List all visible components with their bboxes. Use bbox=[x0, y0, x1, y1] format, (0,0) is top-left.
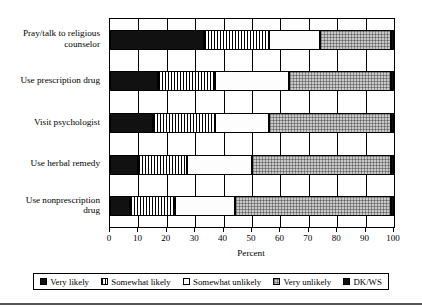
bar-segment bbox=[110, 30, 204, 50]
legend-item[interactable]: Very unlikely bbox=[273, 277, 331, 287]
bar-row bbox=[110, 196, 394, 216]
legend-swatch-icon bbox=[40, 278, 47, 285]
x-axis-tick-label: 10 bbox=[125, 233, 149, 244]
x-axis-tick-label: 70 bbox=[296, 233, 320, 244]
x-axis-tick-label: 50 bbox=[239, 233, 263, 244]
x-axis-title: Percent bbox=[109, 248, 393, 258]
x-axis-tick bbox=[336, 227, 337, 232]
x-axis-tick bbox=[308, 227, 309, 232]
category-label: Use prescription drug bbox=[0, 75, 100, 86]
bar-segment bbox=[235, 196, 391, 216]
stacked-bar bbox=[110, 196, 394, 216]
x-axis-tick bbox=[251, 227, 252, 232]
legend-swatch-icon bbox=[183, 278, 190, 285]
x-axis-tick-label: 20 bbox=[154, 233, 178, 244]
x-axis-tick bbox=[279, 227, 280, 232]
bar-segment bbox=[110, 196, 130, 216]
bar-segment bbox=[391, 113, 394, 133]
chart-legend: Very likelySomewhat likelySomewhat unlik… bbox=[33, 273, 389, 290]
category-label-line: counselor bbox=[0, 39, 100, 50]
x-axis-ticks bbox=[109, 227, 393, 232]
legend-item[interactable]: Somewhat likely bbox=[101, 277, 170, 287]
category-label-line: Use nonprescription bbox=[0, 195, 100, 206]
bar-segment bbox=[391, 30, 394, 50]
category-label: Use herbal remedy bbox=[0, 158, 100, 169]
bar-segment bbox=[187, 155, 252, 175]
legend-item[interactable]: DK/WS bbox=[343, 277, 381, 287]
x-axis-tick bbox=[393, 227, 394, 232]
category-label-line: Visit psychologist bbox=[0, 117, 100, 128]
bar-segment bbox=[391, 155, 394, 175]
x-axis-tick-labels: 0102030405060708090100 bbox=[109, 233, 393, 245]
x-axis-tick bbox=[365, 227, 366, 232]
x-axis-tick-label: 30 bbox=[182, 233, 206, 244]
bar-segment bbox=[215, 71, 289, 91]
bar-segment bbox=[391, 71, 394, 91]
page-divider bbox=[0, 303, 422, 305]
stacked-bar bbox=[110, 30, 394, 50]
category-label: Visit psychologist bbox=[0, 117, 100, 128]
x-axis-tick-label: 40 bbox=[211, 233, 235, 244]
x-axis-tick bbox=[223, 227, 224, 232]
bar-row bbox=[110, 71, 394, 91]
bar-segment bbox=[215, 113, 269, 133]
category-label-line: Use herbal remedy bbox=[0, 158, 100, 169]
x-axis-tick-label: 90 bbox=[353, 233, 377, 244]
legend-label: Somewhat unlikely bbox=[193, 277, 261, 287]
plot-area bbox=[109, 18, 395, 228]
bar-row bbox=[110, 30, 394, 50]
legend-swatch-icon bbox=[343, 278, 350, 285]
legend-label: Somewhat likely bbox=[111, 277, 170, 287]
legend-label: Very unlikely bbox=[283, 277, 331, 287]
x-axis-tick-label: 0 bbox=[97, 233, 121, 244]
bar-segment bbox=[320, 30, 391, 50]
bar-segment bbox=[110, 155, 138, 175]
chart-figure: Pray/talk to religiouscounselorUse presc… bbox=[0, 0, 422, 307]
bar-segment bbox=[153, 113, 215, 133]
x-axis-tick-label: 100 bbox=[381, 233, 405, 244]
category-axis-labels: Pray/talk to religiouscounselorUse presc… bbox=[0, 18, 104, 226]
bar-row bbox=[110, 155, 394, 175]
bar-segment bbox=[138, 155, 186, 175]
category-label-line: Use prescription drug bbox=[0, 75, 100, 86]
bar-segment bbox=[130, 196, 175, 216]
category-label-line: Pray/talk to religious bbox=[0, 28, 100, 39]
category-label: Pray/talk to religiouscounselor bbox=[0, 28, 100, 49]
legend-label: DK/WS bbox=[353, 277, 381, 287]
bar-segment bbox=[269, 30, 320, 50]
x-axis-tick-label: 80 bbox=[324, 233, 348, 244]
x-axis-tick bbox=[194, 227, 195, 232]
legend-swatch-icon bbox=[101, 278, 108, 285]
bar-segment bbox=[269, 113, 391, 133]
legend-item[interactable]: Very likely bbox=[40, 277, 89, 287]
bar-segment bbox=[175, 196, 235, 216]
bar-segment bbox=[252, 155, 391, 175]
legend-label: Very likely bbox=[50, 277, 89, 287]
x-axis-tick bbox=[137, 227, 138, 232]
category-label: Use nonprescriptiondrug bbox=[0, 195, 100, 216]
bar-segment bbox=[110, 71, 158, 91]
x-axis-tick bbox=[109, 227, 110, 232]
stacked-bar bbox=[110, 71, 394, 91]
legend-swatch-icon bbox=[273, 278, 280, 285]
x-axis-tick-label: 60 bbox=[267, 233, 291, 244]
category-label-line: drug bbox=[0, 205, 100, 216]
x-axis-tick bbox=[166, 227, 167, 232]
stacked-bar bbox=[110, 113, 394, 133]
bar-segment bbox=[110, 113, 153, 133]
legend-item[interactable]: Somewhat unlikely bbox=[183, 277, 261, 287]
bar-segment bbox=[289, 71, 391, 91]
bar-segment bbox=[158, 71, 215, 91]
bar-segment bbox=[204, 30, 269, 50]
bar-row bbox=[110, 113, 394, 133]
stacked-bar bbox=[110, 155, 394, 175]
bar-segment bbox=[391, 196, 394, 216]
